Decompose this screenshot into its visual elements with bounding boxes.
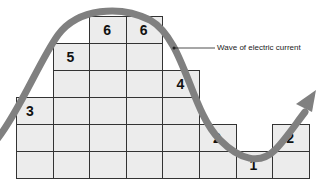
arrow-head-icon (296, 90, 316, 112)
wave-curve (0, 0, 323, 186)
wave-label: Wave of electric current (217, 43, 301, 52)
